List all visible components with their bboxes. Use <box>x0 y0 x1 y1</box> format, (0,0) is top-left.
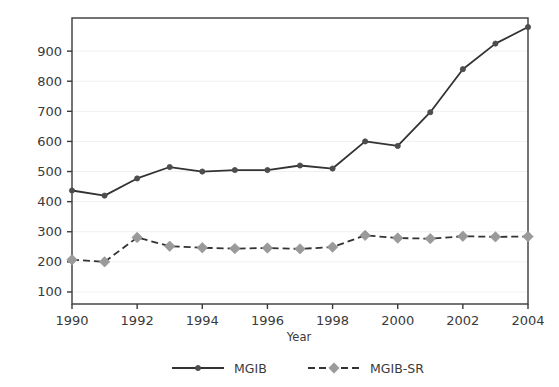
x-axis-ticks <box>72 304 528 309</box>
data-point-marker <box>493 41 498 46</box>
legend-label-mgib-sr: MGIB-SR <box>370 361 424 376</box>
data-point-marker <box>363 139 368 144</box>
data-point-marker <box>262 243 272 253</box>
data-point-marker <box>523 231 533 241</box>
data-point-marker <box>102 193 107 198</box>
data-point-marker <box>69 188 74 193</box>
y-tick-label: 100 <box>37 284 62 299</box>
data-point-marker <box>295 244 305 254</box>
x-tick-label: 1990 <box>55 313 88 328</box>
data-point-marker <box>232 167 237 172</box>
plot-border <box>72 18 528 304</box>
data-point-markers <box>67 24 533 267</box>
y-tick-label: 700 <box>37 104 62 119</box>
data-point-marker <box>135 176 140 181</box>
data-point-marker <box>197 243 207 253</box>
data-point-marker <box>327 242 337 252</box>
y-tick-label: 200 <box>37 254 62 269</box>
data-point-marker <box>165 241 175 251</box>
x-tick-label: 1992 <box>121 313 154 328</box>
data-point-marker <box>393 233 403 243</box>
data-point-marker <box>425 233 435 243</box>
data-point-marker <box>297 163 302 168</box>
y-tick-label: 400 <box>37 194 62 209</box>
y-tick-label: 500 <box>37 164 62 179</box>
x-tick-label: 2000 <box>381 313 414 328</box>
data-point-marker <box>330 166 335 171</box>
x-tick-label: 1996 <box>251 313 284 328</box>
x-tick-label: 2002 <box>446 313 479 328</box>
legend-label-mgib: MGIB <box>234 361 267 376</box>
data-point-marker <box>460 67 465 72</box>
line-chart: 100200300400500600700800900 199019921994… <box>0 0 559 387</box>
plot-frame <box>72 18 528 304</box>
legend-marker <box>195 365 200 370</box>
data-point-marker <box>265 167 270 172</box>
data-point-marker <box>428 110 433 115</box>
y-tick-label: 600 <box>37 134 62 149</box>
y-tick-label: 800 <box>37 74 62 89</box>
data-point-marker <box>200 169 205 174</box>
series-lines <box>72 27 528 262</box>
x-tick-label: 1998 <box>316 313 349 328</box>
x-tick-label: 1994 <box>186 313 219 328</box>
data-point-marker <box>67 255 77 265</box>
y-axis-tick-labels: 100200300400500600700800900 <box>37 44 62 300</box>
data-point-marker <box>490 232 500 242</box>
x-axis-title: Year <box>286 330 312 344</box>
data-point-marker <box>395 143 400 148</box>
legend-marker <box>329 363 339 373</box>
chart-legend: MGIBMGIB-SR <box>172 361 424 376</box>
data-point-marker <box>525 24 530 29</box>
y-tick-label: 900 <box>37 44 62 59</box>
x-axis-tick-labels: 19901992199419961998200020022004 <box>55 313 544 328</box>
y-tick-label: 300 <box>37 224 62 239</box>
data-point-marker <box>167 164 172 169</box>
data-point-marker <box>230 243 240 253</box>
chart-canvas: 100200300400500600700800900 199019921994… <box>0 0 559 387</box>
data-point-marker <box>458 231 468 241</box>
grid-lines <box>72 51 528 292</box>
x-tick-label: 2004 <box>511 313 544 328</box>
